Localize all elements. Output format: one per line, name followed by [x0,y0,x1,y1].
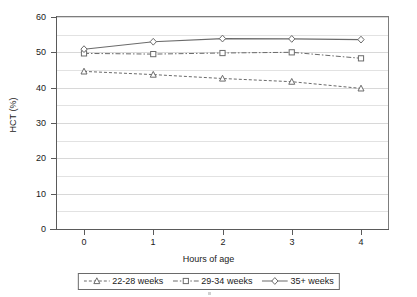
x-tick-label: 3 [272,238,312,247]
gridline-major [57,158,388,159]
chart-figure: 0102030405060 01234 HCT (%) Hours of age… [0,0,417,297]
plot-right-border [388,16,389,230]
y-tick-label: 0 [6,225,46,234]
x-tick-label: 0 [64,238,104,247]
diamond-marker [271,278,277,285]
diamond-legend-icon [261,276,287,286]
legend-label: 35+ weeks [290,277,333,286]
x-tick-label: 2 [203,238,243,247]
legend-label: 22-28 weeks [112,277,163,286]
gridline-minor [57,35,388,36]
y-tick-label: 50 [6,48,46,57]
gridline-minor [57,211,388,212]
gridline-minor [57,176,388,177]
legend-item-3: 35+ weeks [261,276,333,286]
gridline-major [57,88,388,89]
gridline-minor [57,70,388,71]
x-tick-mark [84,230,85,235]
chart-legend: 22-28 weeks29-34 weeks35+ weeks [77,273,339,290]
gridline-major [57,52,388,53]
x-tick-mark [153,230,154,235]
y-tick-label: 60 [6,13,46,22]
x-axis-line [50,229,389,230]
square-marker [183,278,188,283]
x-tick-label: 1 [133,238,173,247]
gridline-minor [57,105,388,106]
x-tick-label: 4 [341,238,381,247]
gridline-major [57,17,388,18]
y-tick-label: 20 [6,154,46,163]
page-artifact-dot [208,292,211,295]
x-tick-mark [361,230,362,235]
triangle-legend-icon [83,276,109,286]
gridline-major [57,123,388,124]
y-axis-title: HCT (%) [8,80,18,150]
legend-item-2: 29-34 weeks [172,276,252,286]
y-axis-line [56,16,57,230]
legend-item-1: 22-28 weeks [83,276,163,286]
gridline-minor [57,141,388,142]
x-tick-mark [223,230,224,235]
y-tick-mark [51,194,56,195]
x-axis-title: Hours of age [0,254,417,264]
gridline-major [57,194,388,195]
legend-label: 29-34 weeks [201,277,252,286]
square-legend-icon [172,276,198,286]
y-tick-mark [51,123,56,124]
y-tick-mark [51,88,56,89]
y-tick-mark [51,17,56,18]
y-tick-mark [51,229,56,230]
y-tick-mark [51,52,56,53]
x-tick-mark [292,230,293,235]
y-tick-mark [51,158,56,159]
y-tick-label: 10 [6,190,46,199]
